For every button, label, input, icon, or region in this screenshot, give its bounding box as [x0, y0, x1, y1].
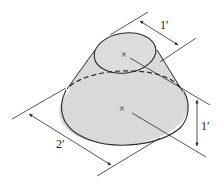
base-diameter-label: 2′	[56, 137, 65, 151]
height-label: 1′	[201, 119, 210, 133]
top-center-marker: ×	[121, 49, 127, 60]
frustum-diagram: × × 1′ 1′ 2′	[0, 0, 218, 186]
base-center-marker: ×	[119, 103, 125, 114]
top-diameter-label: 1′	[160, 18, 169, 32]
height-dimension: 1′	[197, 100, 210, 146]
frustum-body	[56, 29, 192, 151]
